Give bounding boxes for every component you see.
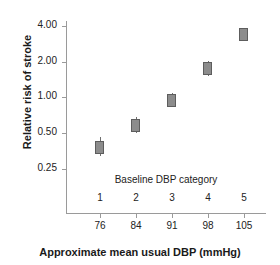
x-tick-label: 91	[152, 220, 192, 231]
chart-figure: Relative risk of stroke Approximate mean…	[0, 0, 280, 265]
y-tick-label: 4.00	[38, 19, 57, 30]
x-tick-mark	[244, 214, 245, 218]
category-label: 2	[116, 192, 156, 203]
y-tick-mark	[62, 97, 67, 98]
y-tick-mark	[62, 62, 67, 63]
x-tick-label: 84	[116, 220, 156, 231]
x-axis-line	[66, 213, 266, 214]
y-tick-mark	[62, 133, 67, 134]
data-point-marker	[203, 62, 212, 75]
plot-area: 4.002.001.000.500.25 76849198105 Baselin…	[66, 14, 266, 214]
y-tick-label: 1.00	[38, 90, 57, 101]
data-point-marker	[167, 94, 176, 107]
data-point-marker	[131, 119, 140, 132]
category-axis-title: Baseline DBP category	[66, 174, 266, 185]
y-tick-label: 0.50	[38, 126, 57, 137]
data-point-marker	[239, 28, 248, 41]
category-label: 4	[188, 192, 228, 203]
x-tick-mark	[172, 214, 173, 218]
x-tick-mark	[136, 214, 137, 218]
y-tick-label: 2.00	[38, 55, 57, 66]
x-tick-label: 76	[80, 220, 120, 231]
category-label: 3	[152, 192, 192, 203]
x-axis-title: Approximate mean usual DBP (mmHg)	[0, 246, 280, 258]
y-tick-mark	[62, 169, 67, 170]
y-tick-label: 0.25	[38, 162, 57, 173]
y-tick-mark	[62, 26, 67, 27]
x-tick-label: 105	[224, 220, 264, 231]
x-tick-mark	[100, 214, 101, 218]
x-tick-label: 98	[188, 220, 228, 231]
category-label: 1	[80, 192, 120, 203]
data-point-marker	[95, 141, 104, 154]
y-axis-title: Relative risk of stroke	[20, 0, 34, 192]
x-tick-mark	[208, 214, 209, 218]
category-label: 5	[224, 192, 264, 203]
